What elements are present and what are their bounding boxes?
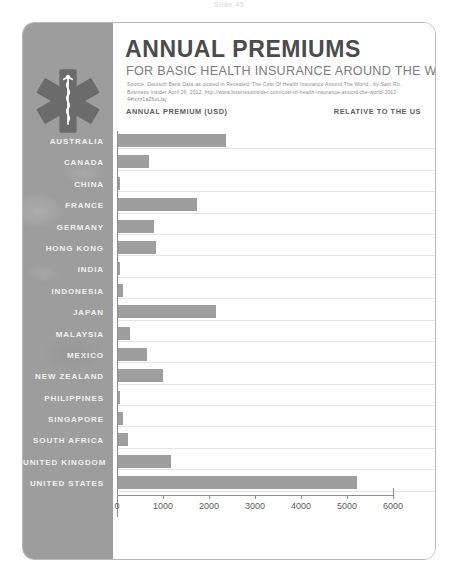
bar-row: 22%: [118, 452, 395, 473]
country-label: CHINA: [23, 174, 107, 195]
page-title: ANNUAL PREMIUMS: [125, 36, 361, 63]
bar: [118, 305, 216, 318]
gridline: [118, 362, 436, 363]
country-label: JAPAN: [23, 302, 107, 323]
bar-row: 19%: [118, 366, 395, 387]
country-label: CANADA: [23, 152, 107, 173]
country-label: UNITED STATES: [23, 473, 107, 494]
x-axis-tick: [163, 495, 164, 499]
country-label: NEW ZEALAND: [23, 366, 107, 387]
gridline: [118, 426, 436, 427]
source-note: Source: Deutsch Bank Data as quoted in R…: [127, 81, 417, 104]
bar: [118, 433, 128, 446]
gridline: [118, 170, 436, 171]
bar: [118, 327, 130, 340]
bar-row: 1%: [118, 388, 395, 409]
gridline: [118, 491, 436, 492]
column-header-annual-premium: ANNUAL PREMIUM (USD): [126, 107, 228, 116]
x-axis-tick-label: 6000: [383, 501, 403, 511]
page-subtitle: FOR BASIC HEALTH INSURANCE AROUND THE WO…: [126, 64, 436, 78]
bar: [118, 284, 123, 297]
column-header-relative: RELATIVE TO THE US: [334, 107, 421, 116]
bar-row: 1%: [118, 259, 395, 280]
bar-row: 100%: [118, 473, 395, 494]
country-label: AUSTRALIA: [23, 131, 107, 152]
bar: [118, 220, 154, 233]
bar: [118, 177, 120, 190]
bar-row: 2%: [118, 281, 395, 302]
bar-row: 1%: [118, 174, 395, 195]
bar: [118, 134, 226, 147]
country-label: SINGAPORE: [23, 409, 107, 430]
bar: [118, 476, 357, 489]
bar: [118, 198, 197, 211]
plot-area: 45%13%1%33%15%16%1%2%41%5%12%19%1%2%4%22…: [117, 131, 395, 559]
gridline: [118, 191, 436, 192]
gridline: [118, 469, 436, 470]
star-of-life-icon: [32, 65, 104, 137]
x-axis-tick: [117, 495, 118, 499]
x-axis-tick: [393, 495, 394, 499]
gridline: [118, 234, 436, 235]
x-axis-tick-label: 4000: [291, 501, 311, 511]
country-label: UNITED KINGDOM: [23, 452, 107, 473]
chart-panel: ANNUAL PREMIUMS FOR BASIC HEALTH INSURAN…: [113, 23, 435, 559]
country-label: PHILIPPINES: [23, 388, 107, 409]
bar-row: 13%: [118, 152, 395, 173]
gridline: [118, 298, 436, 299]
country-label: FRANCE: [23, 195, 107, 216]
bar: [118, 455, 171, 468]
x-axis-tick-label: 2000: [199, 501, 219, 511]
country-label-list: AUSTRALIA CANADA CHINA FRANCE GERMANY HO…: [23, 131, 107, 559]
country-label: INDONESIA: [23, 281, 107, 302]
x-axis-tick: [301, 495, 302, 499]
x-axis-tick: [255, 495, 256, 499]
bar: [118, 262, 120, 275]
country-label: MEXICO: [23, 345, 107, 366]
country-label: MALAYSIA: [23, 324, 107, 345]
slide-number-stub: Slide 45: [0, 1, 458, 8]
bar: [118, 369, 163, 382]
bar-row: 33%: [118, 195, 395, 216]
gridline: [118, 255, 436, 256]
x-axis-tick-label: 5000: [337, 501, 357, 511]
gridline: [118, 341, 436, 342]
gridline: [118, 213, 436, 214]
bar-row: 2%: [118, 409, 395, 430]
bar: [118, 155, 149, 168]
bar-row: 16%: [118, 238, 395, 259]
x-axis-tick: [209, 495, 210, 499]
gridline: [118, 405, 436, 406]
bar-row: 15%: [118, 217, 395, 238]
x-axis-tick: [347, 495, 348, 499]
country-label: INDIA: [23, 259, 107, 280]
bar: [118, 391, 120, 404]
bar: [118, 412, 123, 425]
infographic-card: AUSTRALIA CANADA CHINA FRANCE GERMANY HO…: [22, 22, 436, 560]
bar-row: 5%: [118, 324, 395, 345]
bar-rows: 45%13%1%33%15%16%1%2%41%5%12%19%1%2%4%22…: [118, 131, 395, 495]
bar: [118, 348, 147, 361]
bar-row: 4%: [118, 430, 395, 451]
gridline: [118, 148, 436, 149]
bar: [118, 241, 156, 254]
bar-row: 41%: [118, 302, 395, 323]
gridline: [118, 320, 436, 321]
left-rail: AUSTRALIA CANADA CHINA FRANCE GERMANY HO…: [23, 23, 113, 559]
x-axis-tick-label: 1000: [153, 501, 173, 511]
country-label: HONG KONG: [23, 238, 107, 259]
country-label: GERMANY: [23, 217, 107, 238]
x-axis-tick-label: 3000: [245, 501, 265, 511]
bar-row: 12%: [118, 345, 395, 366]
country-label: SOUTH AFRICA: [23, 430, 107, 451]
gridline: [118, 448, 436, 449]
bar-row: 45%: [118, 131, 395, 152]
gridline: [118, 277, 436, 278]
gridline: [118, 384, 436, 385]
x-axis-tick-label: 0: [114, 501, 119, 511]
x-axis: 0100020003000400050006000: [117, 495, 395, 535]
